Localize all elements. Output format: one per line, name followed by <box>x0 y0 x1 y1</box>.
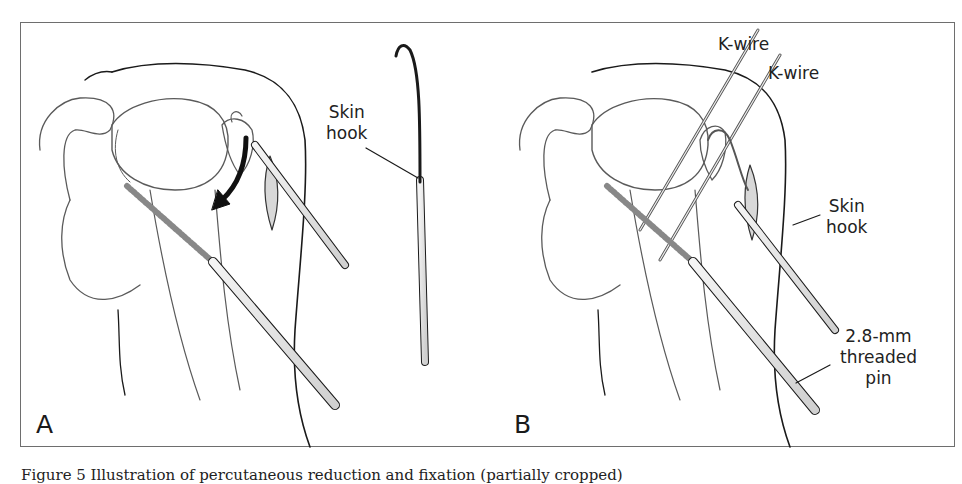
label-k-wire-1: K-wire <box>718 34 769 55</box>
label-skin-hook-a: Skin hook <box>326 102 367 144</box>
label-k-wire-2: K-wire <box>768 63 819 84</box>
panel-letter-b: B <box>514 410 531 439</box>
panel-b-art <box>520 30 835 447</box>
panel-letter-a: A <box>36 410 53 439</box>
label-threaded-pin: 2.8-mm threaded pin <box>840 326 917 389</box>
figure-caption: Figure 5 Illustration of percutaneous re… <box>21 466 623 484</box>
label-skin-hook-b: Skin hook <box>826 196 867 238</box>
